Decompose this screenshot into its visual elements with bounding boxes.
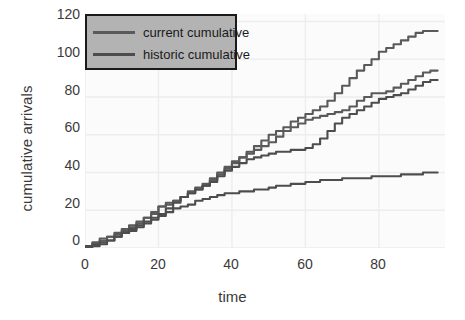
y-tick-120: 120: [44, 6, 80, 22]
y-tick-20: 20: [44, 195, 80, 211]
y-tick-0: 0: [44, 232, 80, 248]
legend-line-swatch-historic-icon: [93, 53, 135, 56]
x-tick-80: 80: [358, 256, 398, 272]
legend-item-current: current cumulative: [93, 21, 229, 43]
chart-legend: current cumulative historic cumulative: [85, 14, 237, 70]
legend-line-swatch-current-icon: [93, 31, 135, 34]
y-tick-80: 80: [44, 82, 80, 98]
x-tick-0: 0: [65, 256, 105, 272]
legend-item-historic: historic cumulative: [93, 43, 229, 65]
y-tick-40: 40: [44, 157, 80, 173]
x-axis-label: time: [0, 288, 465, 305]
x-axis-tick-labels: 0 20 40 60 80: [0, 256, 465, 278]
chart-figure: cumulative arrivals 120 100 80 60 40 20 …: [0, 0, 465, 320]
legend-label-current: current cumulative: [143, 25, 249, 40]
y-tick-100: 100: [44, 44, 80, 60]
y-tick-60: 60: [44, 119, 80, 135]
y-axis-label: cumulative arrivals: [18, 59, 35, 239]
legend-label-historic: historic cumulative: [143, 47, 250, 62]
x-tick-60: 60: [285, 256, 325, 272]
x-tick-20: 20: [138, 256, 178, 272]
x-tick-40: 40: [211, 256, 251, 272]
